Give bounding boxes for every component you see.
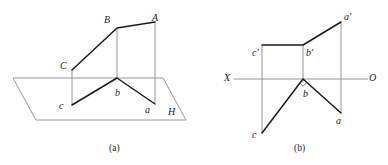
label-plane-h: H xyxy=(168,107,175,117)
front-view-edge-a-b-c-prime xyxy=(262,22,341,45)
label-point-c-lower: c xyxy=(59,101,63,111)
label-point-a-top-view: a xyxy=(336,116,341,126)
label-axis-o: O xyxy=(369,73,376,83)
horizontal-plane-h xyxy=(13,78,186,120)
label-point-c-prime: c' xyxy=(252,48,259,58)
label-point-B: B xyxy=(104,15,110,25)
figure-canvas xyxy=(0,0,388,165)
caption-panel-a: (a) xyxy=(109,144,120,154)
geometry-figure: A B C b c a H a' b' c' b c a X O (a) (b) xyxy=(0,0,388,165)
top-view-edge-a-b-c xyxy=(262,79,341,133)
panel-b-drawing xyxy=(234,22,368,133)
label-point-b-lower: b xyxy=(115,88,120,98)
label-point-b-prime: b' xyxy=(306,48,313,58)
panel-a-drawing xyxy=(13,22,186,120)
label-point-a-prime: a' xyxy=(344,12,351,22)
space-edge-A-B-C xyxy=(72,22,155,70)
label-point-A: A xyxy=(152,13,158,23)
projected-edge-a-b-c xyxy=(72,78,155,105)
caption-panel-b: (b) xyxy=(294,144,305,154)
label-axis-x: X xyxy=(224,73,230,83)
label-point-C: C xyxy=(60,61,67,71)
label-point-b-top-view: b xyxy=(303,89,308,99)
label-point-c-top-view: c xyxy=(252,130,256,140)
label-point-a-lower: a xyxy=(145,105,150,115)
